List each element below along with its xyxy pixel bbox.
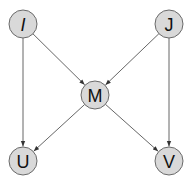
- node-label: I: [20, 15, 25, 35]
- edge-m-to-v: [105, 104, 158, 151]
- causal-graph: IJMUV: [0, 0, 191, 187]
- node-label: V: [163, 152, 175, 172]
- edge-i-to-m: [33, 34, 85, 85]
- edge-j-to-m: [105, 34, 158, 85]
- node-u: U: [9, 147, 37, 175]
- node-label: U: [17, 152, 30, 172]
- edge-m-to-u: [34, 104, 85, 151]
- node-i: I: [9, 10, 37, 38]
- node-v: V: [155, 147, 183, 175]
- node-label: M: [88, 86, 103, 106]
- node-label: J: [165, 15, 174, 35]
- node-j: J: [155, 10, 183, 38]
- node-m: M: [81, 81, 109, 109]
